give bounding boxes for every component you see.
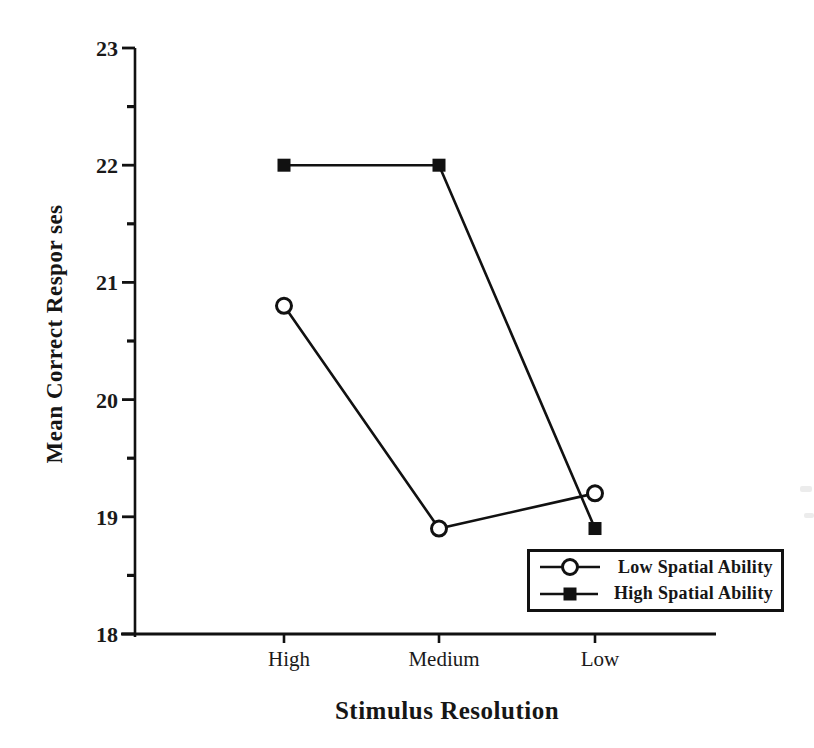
filled-square-marker-icon	[538, 583, 598, 605]
y-tick-label: 19	[96, 505, 118, 530]
legend: Low Spatial Ability High Spatial Ability	[527, 549, 784, 612]
legend-label-low-spatial: Low Spatial Ability	[618, 557, 773, 578]
open-circle-marker-icon	[538, 556, 602, 578]
data-point-filled-square	[589, 522, 602, 535]
data-point-open-circle	[432, 521, 447, 536]
series-line-filled-square	[284, 165, 595, 528]
line-chart-figure: 232221201918HighMediumLow Mean Correct R…	[0, 0, 814, 748]
x-category-label: Low	[581, 647, 620, 671]
x-category-label: High	[268, 647, 311, 671]
data-point-filled-square	[278, 159, 291, 172]
y-tick-label: 21	[96, 270, 118, 295]
y-tick-label: 20	[96, 388, 118, 413]
legend-item-high-spatial: High Spatial Ability	[538, 581, 773, 607]
x-axis-title: Stimulus Resolution	[335, 697, 559, 725]
scan-artifact	[804, 513, 814, 518]
y-axis-title: Mean Correct Respor ses	[42, 204, 68, 463]
y-tick-label: 18	[96, 622, 118, 647]
x-category-label: Medium	[408, 647, 479, 671]
chart-plot-area: 232221201918HighMediumLow	[0, 0, 814, 748]
legend-label-high-spatial: High Spatial Ability	[614, 583, 773, 604]
y-tick-label: 23	[96, 36, 118, 61]
data-point-open-circle	[277, 298, 292, 313]
y-tick-label: 22	[96, 153, 118, 178]
legend-item-low-spatial: Low Spatial Ability	[538, 554, 773, 580]
data-point-filled-square	[433, 159, 446, 172]
scan-artifact	[800, 486, 812, 492]
data-point-open-circle	[588, 486, 603, 501]
